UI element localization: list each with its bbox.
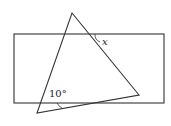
geometry-diagram: x 10° <box>0 0 171 126</box>
angle-x-arc <box>95 34 100 42</box>
angle-10-label: 10° <box>49 88 67 99</box>
angle-x-label: x <box>102 36 108 47</box>
rectangle <box>14 34 164 103</box>
angle-10-arc <box>57 103 62 108</box>
